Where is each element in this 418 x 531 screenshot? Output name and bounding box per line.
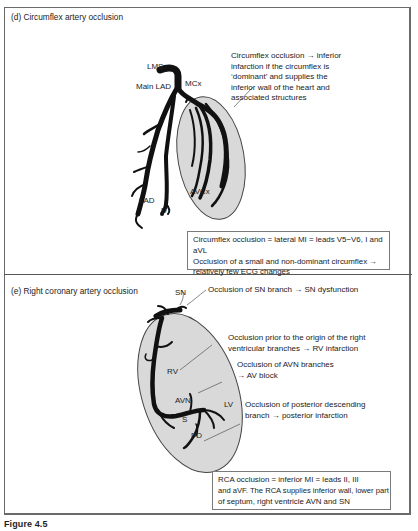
label-lad: LAD	[139, 196, 155, 206]
note-line: → AV block	[237, 371, 334, 382]
panel-d-note: Circumflex occlusion → inferior infarcti…	[231, 51, 391, 104]
label-mcx: MCx	[185, 79, 201, 89]
label-s: S	[182, 415, 187, 425]
box-line: and aVF. The RCA supplies inferior wall,…	[218, 486, 385, 497]
note-line: infarction if the circumflex is	[231, 62, 391, 73]
label-pd: PD	[191, 431, 202, 441]
note-line: associated structures	[231, 93, 391, 104]
note-line: Circumflex occlusion → inferior	[231, 51, 391, 62]
note-line: ‘dominant’ and supplies the	[231, 72, 391, 83]
label-main-lad: Main LAD	[136, 82, 171, 92]
box-line: of septum, right ventricle AVN and SN	[218, 497, 385, 508]
label-avcx: AVCx	[190, 187, 210, 197]
note-avn: Occlusion of AVN branches → AV block	[237, 360, 334, 381]
label-lv: LV	[224, 400, 233, 410]
label-sn: SN	[175, 288, 186, 298]
panel-d-summary-box: Circumflex occlusion = lateral MI = lead…	[187, 231, 390, 270]
note-sn: Occlusion of SN branch → SN dysfunction	[208, 285, 358, 296]
box-line: Circumflex occlusion = lateral MI = lead…	[193, 235, 384, 257]
note-line: Occlusion prior to the origin of the rig…	[228, 333, 365, 344]
note-line: Occlusion of posterior descending	[245, 400, 366, 411]
note-line: branch → posterior infarction	[245, 411, 366, 422]
figure-caption: Figure 4.5	[4, 519, 48, 529]
note-line: Occlusion of AVN branches	[237, 360, 334, 371]
label-avn: AVN	[175, 396, 191, 406]
note-rv: Occlusion prior to the origin of the rig…	[228, 333, 365, 354]
panel-e-summary-box: RCA occlusion = inferior MI = leads II, …	[212, 471, 391, 510]
label-lms: LMS	[147, 62, 163, 72]
note-line: Occlusion of SN branch → SN dysfunction	[208, 285, 358, 296]
note-pd: Occlusion of posterior descending branch…	[245, 400, 366, 421]
note-line: ventricular branches → RV infarction	[228, 344, 365, 355]
panel-e-title: (e) Right coronary artery occlusion	[11, 286, 138, 296]
note-line: inferior wall of the heart and	[231, 83, 391, 94]
box-line: relatively few ECG changes	[193, 267, 384, 278]
box-line: RCA occlusion = inferior MI = leads II, …	[218, 475, 385, 486]
label-d: D	[161, 206, 167, 216]
panel-d-title: (d) Circumflex artery occlusion	[11, 12, 123, 22]
label-rv: RV	[167, 367, 178, 377]
box-line: Occlusion of a small and non-dominant ci…	[193, 257, 384, 268]
